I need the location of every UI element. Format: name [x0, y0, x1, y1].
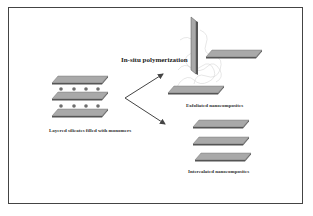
intercalated-label: Intercalated nanocomposites [188, 169, 249, 174]
reaction-arrows [125, 74, 165, 124]
diagram-canvas [0, 0, 313, 216]
process-label: In-situ polymerization [121, 56, 188, 64]
layered-silicate-stack [52, 76, 108, 118]
intercalated-stack [193, 120, 251, 162]
exfoliated-label: Exfoliated nanocomposites [186, 103, 243, 108]
start-label: Layered silicates filled with monomers [49, 128, 131, 133]
